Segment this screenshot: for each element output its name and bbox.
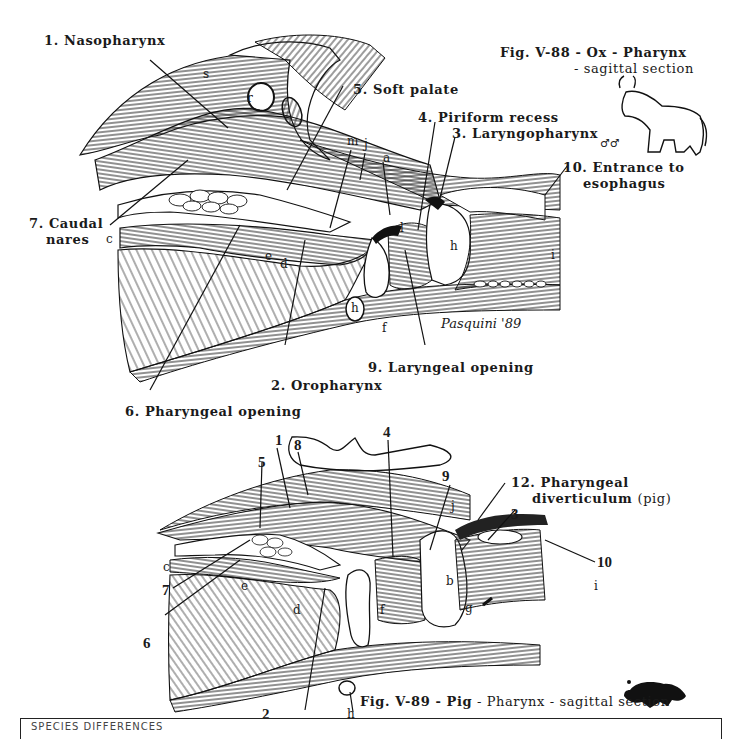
letter-l: l [400, 222, 404, 234]
letter-j: j [364, 138, 368, 150]
label-diverticulum: diverticulum (pig) [532, 491, 671, 506]
label-5: 5 [258, 455, 266, 470]
label-10: 10 [597, 555, 612, 570]
label-diverticulum-pig: (pig) [638, 491, 672, 506]
label-8: 8 [294, 438, 302, 453]
label-laryngeal-opening: 9. Laryngeal opening [368, 360, 534, 375]
letter-h-lower: h [351, 302, 359, 314]
letter-s: s [203, 68, 209, 80]
caption-fig-pig: Fig. V-89 - [360, 694, 447, 709]
label-esophagus-entrance: 10. Entrance to [563, 160, 685, 175]
letter-i: i [551, 249, 555, 261]
label-esophagus: esophagus [583, 176, 666, 191]
letter-c-bottom: c [163, 561, 170, 573]
label-caudal-nares: 7. Caudal [29, 216, 103, 231]
letter-e: e [265, 250, 272, 262]
letter-r: r [247, 92, 253, 104]
letter-d: d [280, 258, 288, 270]
letter-j-bottom: j [451, 500, 455, 512]
label-9: 9 [442, 469, 450, 484]
label-laryngopharynx: 3. Laryngopharynx [452, 126, 598, 141]
letter-m: m [347, 135, 358, 147]
label-pharyngeal-opening: 6. Pharyngeal opening [125, 404, 301, 419]
ox-section-drawing [80, 35, 568, 390]
letter-c: c [106, 233, 113, 245]
figure-caption-ox: Fig. V-88 - Ox - Pharynx [500, 45, 687, 61]
letter-g: g [465, 602, 473, 614]
label-3: 3 [511, 507, 519, 522]
label-nasopharynx: 1. Nasopharynx [44, 33, 165, 48]
letter-f: f [382, 322, 386, 334]
letter-a: a [383, 152, 390, 164]
species-differences-box: SPECIES DIFFERENCES [20, 718, 722, 739]
figure-caption-ox-line2: - sagittal section [574, 61, 694, 77]
label-6: 6 [143, 636, 151, 651]
label-piriform-recess: 4. Piriform recess [418, 110, 559, 125]
letter-h-upper: h [450, 240, 458, 252]
label-diverticulum-text: diverticulum [532, 491, 632, 506]
species-differences-heading: SPECIES DIFFERENCES [31, 721, 163, 732]
artist-signature: Pasquini '89 [441, 318, 521, 330]
caption-rest-pig: - Pharynx - sagittal section [472, 694, 669, 709]
caption-fig-ox: Fig. V-88 - Ox - Pharynx [500, 45, 687, 60]
label-oropharynx: 2. Oropharynx [271, 378, 382, 393]
letter-d-bottom: d [293, 604, 301, 616]
sex-symbols: ♂♂ [600, 138, 620, 150]
caption-species-pig: Pig [447, 694, 473, 709]
letter-i-bottom: i [594, 580, 598, 592]
label-4: 4 [383, 425, 391, 440]
label-1: 1 [275, 433, 283, 448]
ox-icon [619, 76, 706, 155]
label-soft-palate: 5. Soft palate [353, 82, 459, 97]
label-pharyngeal-diverticulum: 12. Pharyngeal [511, 475, 629, 490]
figure-caption-pig: Fig. V-89 - Pig - Pharynx - sagittal sec… [360, 694, 670, 710]
letter-f-bottom: f [380, 604, 384, 616]
label-caudal-nares-2: nares [46, 232, 89, 247]
letter-e-bottom: e [241, 580, 248, 592]
letter-b: b [446, 575, 454, 587]
label-7: 7 [162, 583, 170, 598]
